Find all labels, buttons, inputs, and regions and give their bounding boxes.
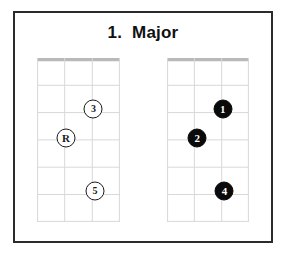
left-chord-diagram: 3 R 5 xyxy=(37,58,120,222)
finger-marker-1: 1 xyxy=(213,99,232,118)
finger-marker-2: 2 xyxy=(188,129,207,148)
page-root: 1. Major xyxy=(0,0,287,258)
page-title: 1. Major xyxy=(15,23,271,43)
chord-card: 1. Major xyxy=(13,11,273,243)
finger-marker-5: 5 xyxy=(86,181,105,200)
finger-marker-4: 4 xyxy=(215,181,234,200)
right-chord-diagram: 1 2 4 xyxy=(167,58,249,222)
right-fretboard-grid xyxy=(167,58,249,222)
finger-marker-root: R xyxy=(57,129,76,148)
left-fretboard-grid xyxy=(37,58,120,222)
finger-marker-3: 3 xyxy=(84,99,103,118)
